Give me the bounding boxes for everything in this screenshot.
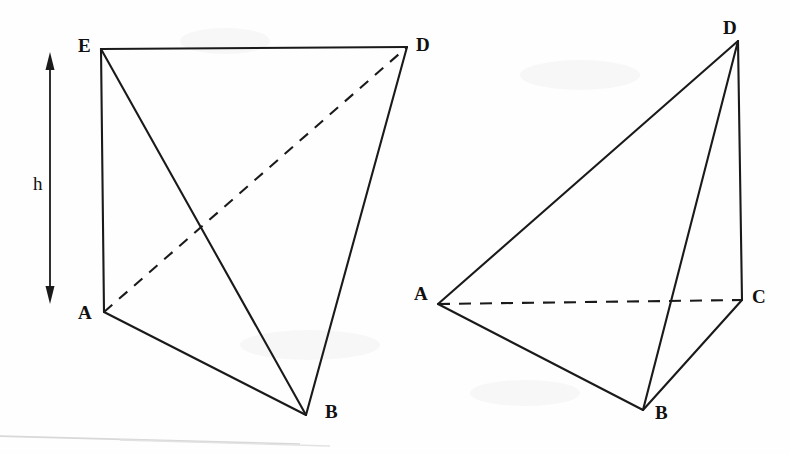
edge-left-A-B	[104, 312, 306, 415]
geometry-canvas	[0, 0, 790, 454]
edge-left-E-D	[101, 47, 407, 49]
vertex-label-left-D: D	[416, 35, 430, 54]
edge-right-A-D	[438, 41, 738, 304]
edge-right-A-C-dashed	[438, 300, 742, 304]
vertex-label-right-B: B	[655, 403, 668, 422]
left-solid-group	[101, 47, 407, 415]
edge-right-D-B	[643, 41, 738, 410]
vertex-label-right-A: A	[414, 284, 428, 303]
edge-left-D-B	[306, 47, 407, 415]
vertex-label-right-C: C	[752, 287, 766, 306]
scan-edge-line	[120, 440, 330, 446]
edge-left-E-A	[101, 49, 104, 312]
edge-left-E-B	[101, 49, 306, 415]
height-dimension-label: h	[33, 174, 43, 193]
vertex-label-left-A: A	[78, 303, 92, 322]
edge-right-D-C	[738, 41, 742, 300]
height-arrow-head-up	[46, 52, 55, 70]
edge-left-A-D-dashed	[104, 47, 407, 312]
diagram-page: E D A B h D A C B	[0, 0, 790, 454]
height-arrow-group	[46, 52, 55, 304]
vertex-label-left-B: B	[325, 402, 338, 421]
vertex-label-left-E: E	[78, 36, 91, 55]
vertex-label-right-D: D	[723, 18, 737, 37]
edge-right-A-B	[438, 304, 643, 410]
scan-edge-line	[0, 436, 300, 444]
right-tetrahedron-group	[438, 41, 742, 410]
height-arrow-head-down	[46, 286, 55, 304]
